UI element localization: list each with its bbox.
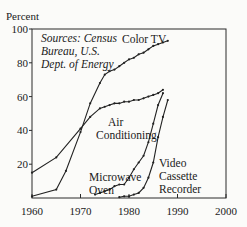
data-point: [123, 62, 125, 64]
data-point: [118, 65, 120, 67]
data-point: [31, 172, 33, 174]
svg-text:Color TV: Color TV: [122, 33, 167, 45]
data-point: [89, 116, 91, 118]
label-color-tv: Color TV: [122, 33, 167, 45]
y-tick-label: 80: [17, 57, 29, 69]
data-point: [167, 40, 169, 42]
data-point: [118, 183, 120, 185]
data-point: [65, 170, 67, 172]
data-point: [133, 57, 135, 59]
y-tick-label: 20: [17, 158, 29, 170]
svg-text:Dept. of Energy: Dept. of Energy: [40, 58, 115, 71]
data-point: [133, 194, 135, 196]
y-tick-label: 60: [17, 91, 29, 103]
data-point: [113, 102, 115, 104]
data-point: [152, 45, 154, 47]
data-point: [109, 104, 111, 106]
svg-text:Conditioning: Conditioning: [96, 129, 157, 142]
x-tick-label: 2000: [215, 205, 238, 217]
source-annotation: Sources: Census Bureau, U.S. Dept. of En…: [40, 32, 117, 71]
data-point: [128, 58, 130, 60]
data-point: [152, 161, 154, 163]
x-tick-label: 1970: [70, 205, 93, 217]
line-chart: 1960197019801990200020406080100 Percent …: [0, 0, 247, 227]
data-point: [55, 156, 57, 158]
data-point: [142, 187, 144, 189]
x-tick-label: 1960: [21, 205, 44, 217]
data-point: [99, 107, 101, 109]
data-point: [128, 101, 130, 103]
data-point: [147, 48, 149, 50]
data-point: [31, 195, 33, 197]
data-point: [152, 94, 154, 96]
data-point: [118, 102, 120, 104]
data-point: [118, 196, 120, 198]
data-point: [138, 192, 140, 194]
data-point: [142, 97, 144, 99]
x-tick-label: 1980: [118, 205, 141, 217]
data-point: [55, 188, 57, 190]
data-point: [138, 53, 140, 55]
svg-text:Video: Video: [159, 157, 187, 169]
data-point: [147, 177, 149, 179]
data-point: [123, 195, 125, 197]
data-point: [138, 161, 140, 163]
data-point: [157, 92, 159, 94]
data-point: [79, 131, 81, 133]
data-point: [142, 52, 144, 54]
label-air-conditioning: Air Conditioning: [96, 116, 157, 142]
y-axis-label: Percent: [6, 10, 39, 22]
data-point: [142, 155, 144, 157]
data-point: [89, 102, 91, 104]
data-point: [157, 136, 159, 138]
label-video-cassette-recorder: Video Cassette Recorder: [159, 157, 201, 195]
data-point: [104, 106, 106, 108]
svg-text:Air: Air: [108, 116, 124, 128]
data-point: [162, 116, 164, 118]
data-point: [152, 123, 154, 125]
data-point: [109, 70, 111, 72]
data-point: [133, 99, 135, 101]
svg-text:Cassette: Cassette: [159, 170, 197, 182]
data-point: [167, 99, 169, 101]
data-point: [104, 74, 106, 76]
data-point: [162, 92, 164, 94]
data-point: [138, 99, 140, 101]
svg-text:Recorder: Recorder: [159, 183, 201, 195]
data-point: [79, 128, 81, 130]
svg-text:Microwave: Microwave: [89, 171, 141, 183]
x-tick-label: 1990: [167, 205, 190, 217]
label-microwave-oven: Microwave Oven: [89, 171, 141, 196]
svg-text:Bureau, U.S.: Bureau, U.S.: [41, 45, 100, 58]
svg-text:Sources: Census: Sources: Census: [41, 32, 117, 44]
data-point: [123, 101, 125, 103]
data-point: [99, 82, 101, 84]
y-tick-label: 40: [17, 124, 29, 136]
data-point: [128, 195, 130, 197]
data-point: [147, 141, 149, 143]
data-point: [157, 104, 159, 106]
data-point: [123, 183, 125, 185]
data-point: [162, 89, 164, 91]
svg-text:Oven: Oven: [89, 184, 114, 196]
y-tick-label: 100: [12, 23, 29, 35]
data-point: [147, 96, 149, 98]
